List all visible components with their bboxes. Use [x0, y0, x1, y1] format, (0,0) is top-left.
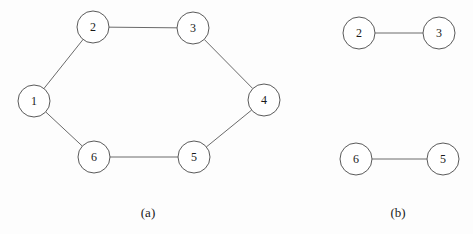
graph-node-5: 5 [178, 141, 210, 173]
panel-b-caption: (b) [390, 205, 405, 220]
panel-a-ring-graph: 123456 (a) [18, 11, 280, 220]
node-label: 6 [353, 152, 359, 166]
graph-node-2: 2 [343, 17, 375, 49]
node-label: 4 [261, 93, 267, 107]
edge-1-2 [44, 40, 83, 89]
graph-figure: 123456 (a) 2365 (b) [0, 0, 473, 234]
graph-node-2: 2 [77, 11, 109, 43]
node-label: 2 [356, 26, 362, 40]
graph-node-6: 6 [340, 143, 372, 175]
node-label: 2 [90, 20, 96, 34]
graph-node-3: 3 [177, 12, 209, 44]
node-label: 6 [91, 150, 97, 164]
panel-a-edges [44, 27, 253, 157]
edge-6-1 [46, 112, 83, 146]
graph-node-4: 4 [248, 84, 280, 116]
graph-node-1: 1 [18, 85, 50, 117]
graph-canvas: 123456 (a) 2365 (b) [0, 0, 473, 234]
node-label: 3 [190, 21, 196, 35]
node-label: 5 [440, 152, 446, 166]
node-label: 1 [31, 94, 37, 108]
node-label: 3 [436, 26, 442, 40]
graph-node-3: 3 [423, 17, 455, 49]
edge-3-4 [204, 39, 253, 88]
panel-a-caption: (a) [141, 205, 155, 220]
panel-a-nodes: 123456 [18, 11, 280, 173]
panel-b-partitioned-graph: 2365 (b) [340, 17, 459, 220]
graph-node-5: 5 [427, 143, 459, 175]
edge-2-3 [109, 27, 177, 28]
panel-b-edges [372, 33, 427, 159]
edge-4-5 [206, 110, 251, 147]
panel-b-nodes: 2365 [340, 17, 459, 175]
graph-node-6: 6 [78, 141, 110, 173]
node-label: 5 [191, 150, 197, 164]
